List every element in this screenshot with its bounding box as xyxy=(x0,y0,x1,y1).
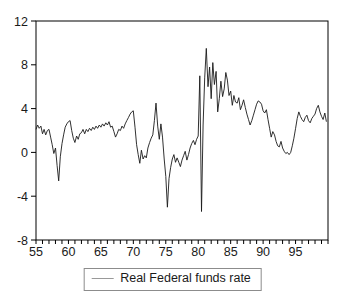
x-axis-label: 70 xyxy=(126,245,140,259)
x-axis-label: 80 xyxy=(191,245,205,259)
x-axis-label: 65 xyxy=(94,245,108,259)
y-axis-label: 12 xyxy=(14,15,28,29)
x-axis-label: 85 xyxy=(224,245,238,259)
legend: Real Federal funds rate xyxy=(83,268,262,291)
x-axis-label: 55 xyxy=(29,245,43,259)
y-axis-label: 8 xyxy=(21,58,28,72)
x-axis-label: 90 xyxy=(256,245,270,259)
x-axis-label: 95 xyxy=(289,245,303,259)
y-axis-label: -8 xyxy=(17,234,28,248)
series-line xyxy=(36,48,326,211)
x-axis-label: 75 xyxy=(159,245,173,259)
plot-frame xyxy=(36,21,328,240)
legend-line-sample xyxy=(91,278,113,279)
legend-label: Real Federal funds rate xyxy=(120,272,251,286)
chart-figure: 12840-4-8556065707580859095 Real Federal… xyxy=(0,0,345,303)
x-axis-label: 60 xyxy=(61,245,75,259)
chart-canvas: 12840-4-8556065707580859095 xyxy=(0,0,345,303)
y-axis-label: -4 xyxy=(17,190,28,204)
y-axis-label: 0 xyxy=(21,146,28,160)
y-axis-label: 4 xyxy=(21,102,28,116)
